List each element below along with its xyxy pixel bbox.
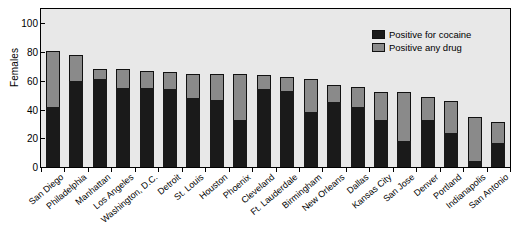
y-axis-title: Females [9,28,20,108]
bar-group [280,9,294,167]
bar-segment-cocaine [468,161,482,167]
bar-group [491,9,505,167]
bar-segment-cocaine [397,141,411,167]
chart-legend: Positive for cocaine Positive any drug [372,29,471,55]
bar-group [46,9,60,167]
bar-segment-cocaine [116,88,130,167]
y-tick-label: 40 [0,104,38,115]
bar-group [140,9,154,167]
bar-segment-cocaine [304,112,318,167]
bar-group [210,9,224,167]
y-tick-label: 60 [0,75,38,86]
x-axis-labels: San DiegoPhiladelphiaManhattanLos Angele… [0,172,517,245]
legend-item-cocaine: Positive for cocaine [372,29,471,40]
bar-segment-any-drug [468,117,482,167]
bar-segment-cocaine [257,89,271,167]
bar-segment-cocaine [93,79,107,167]
bar-group [69,9,83,167]
y-tick-label: 20 [0,133,38,144]
bar-segment-cocaine [327,102,341,167]
bar-segment-cocaine [46,107,60,167]
bar-segment-cocaine [233,120,247,167]
bar-segment-cocaine [140,88,154,167]
legend-item-anydrug: Positive any drug [372,42,471,53]
bar-group [116,9,130,167]
black-square-icon [372,30,385,39]
bar-group [327,9,341,167]
legend-label-cocaine: Positive for cocaine [389,29,471,40]
bar-group [351,9,365,167]
bar-segment-cocaine [351,107,365,167]
gray-square-icon [372,43,385,52]
bar-segment-cocaine [210,100,224,168]
bar-segment-cocaine [444,133,458,167]
bar-segment-cocaine [69,81,83,167]
y-tick-label: 100 [0,18,38,29]
bar-group [233,9,247,167]
bar-group [163,9,177,167]
bar-segment-cocaine [163,89,177,167]
bar-segment-cocaine [280,91,294,167]
y-tick-label: 0 [0,162,38,173]
y-tick-label: 80 [0,47,38,58]
bar-chart: Females 020406080100 San DiegoPhiladelph… [0,0,517,245]
bar-segment-cocaine [491,143,505,167]
legend-label-anydrug: Positive any drug [389,42,462,53]
bar-segment-cocaine [186,98,200,167]
bar-segment-cocaine [421,120,435,167]
bar-group [257,9,271,167]
bar-segment-cocaine [374,120,388,167]
bar-group [304,9,318,167]
bar-group [93,9,107,167]
bar-group [186,9,200,167]
